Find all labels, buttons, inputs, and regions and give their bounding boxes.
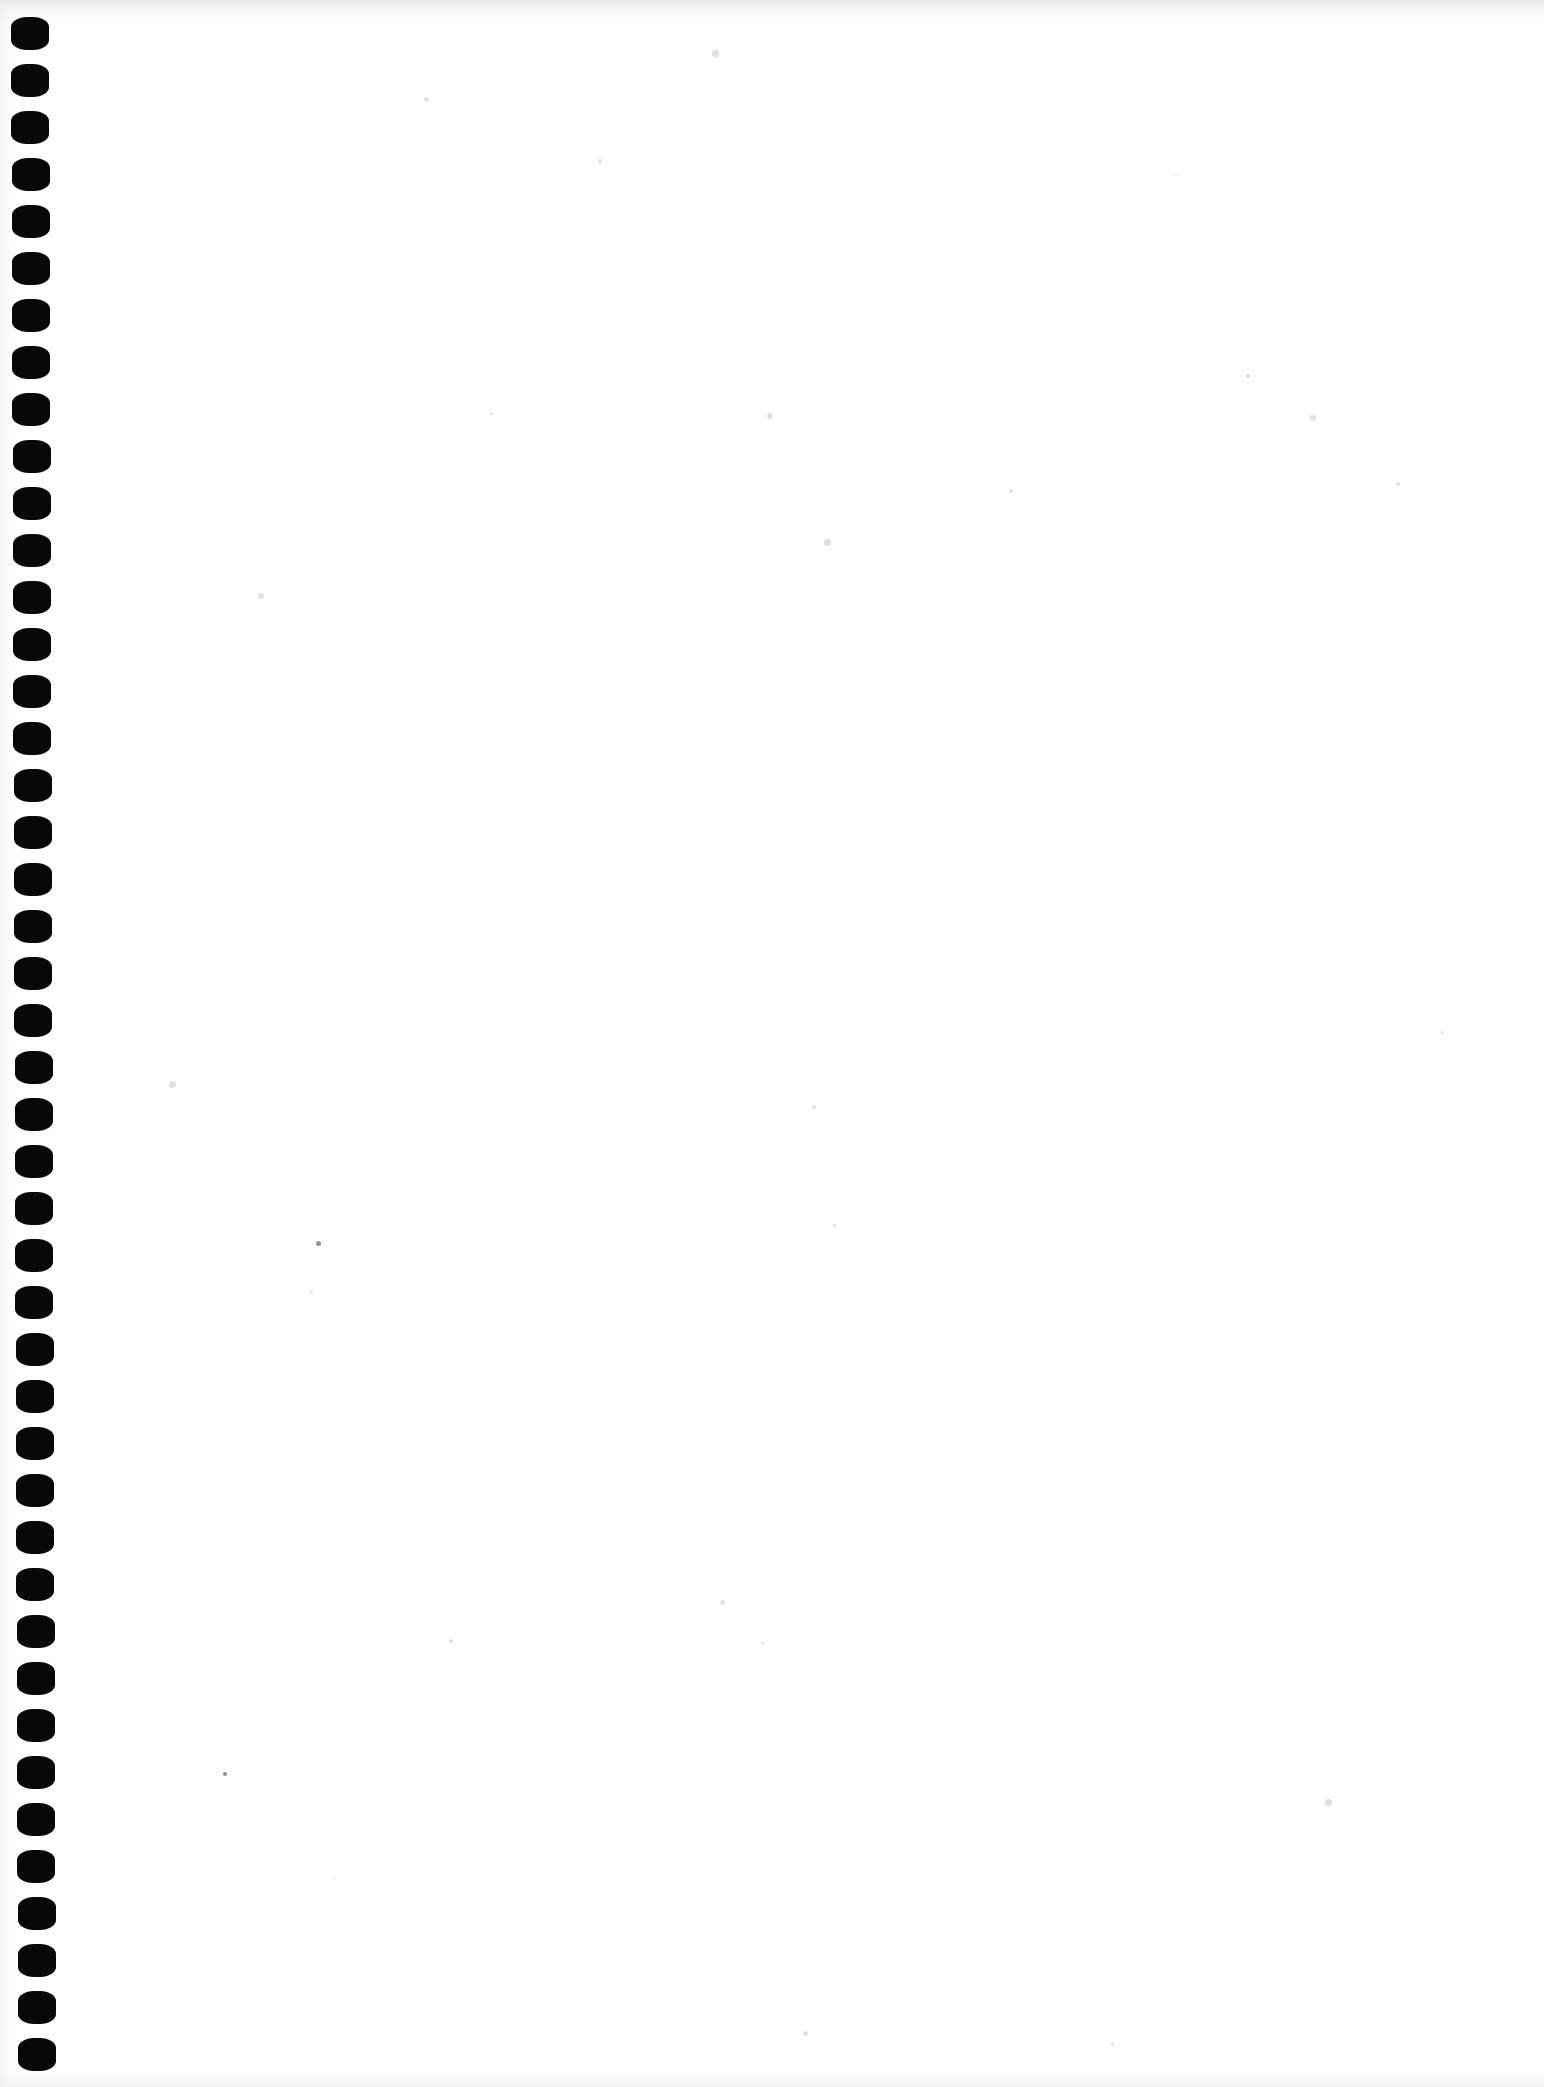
binding-hole [13,440,51,473]
binding-hole [12,346,50,379]
binding-hole [15,1286,53,1319]
binding-hole [17,1709,55,1742]
binding-hole [12,393,50,426]
binding-hole [13,534,51,567]
binding-hole [16,1521,54,1554]
binding-hole [16,1568,54,1601]
binding-hole [18,1897,56,1930]
binding-hole [14,816,52,849]
binding-hole [15,1239,53,1272]
binding-hole [13,722,51,755]
binding-hole [15,1145,53,1178]
binding-hole [11,111,49,144]
binding-hole [12,252,50,285]
scanned-page [0,0,1544,2087]
binding-hole [15,1098,53,1131]
binding-hole [11,64,49,97]
binding-hole [17,1803,55,1836]
binding-hole [13,581,51,614]
binding-hole [14,1004,52,1037]
binding-hole [16,1427,54,1460]
page-content-area [110,40,1500,2040]
binding-hole [16,1333,54,1366]
binding-hole [17,1615,55,1648]
binding-hole [12,158,50,191]
binding-hole [15,1051,53,1084]
binding-hole [12,205,50,238]
binding-hole [16,1474,54,1507]
binding-hole [18,2038,56,2071]
binding-hole [17,1662,55,1695]
binding-hole [13,675,51,708]
binding-hole [16,1380,54,1413]
binding-hole [12,299,50,332]
binding-hole [18,1991,56,2024]
binding-hole [18,1944,56,1977]
binding-hole [14,910,52,943]
binding-hole [17,1850,55,1883]
binding-holes-column [0,0,90,2087]
binding-hole [17,1756,55,1789]
binding-hole [13,487,51,520]
binding-hole [14,863,52,896]
binding-hole [15,1192,53,1225]
binding-hole [13,628,51,661]
binding-hole [11,17,49,50]
binding-hole [14,769,52,802]
binding-hole [14,957,52,990]
